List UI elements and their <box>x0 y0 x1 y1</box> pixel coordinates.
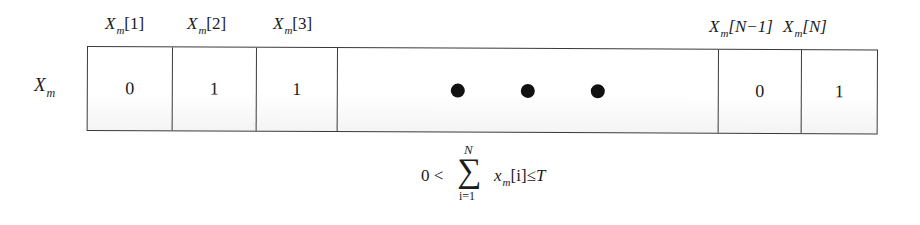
term-base: x <box>494 166 502 185</box>
row-label-base: X <box>34 74 46 95</box>
sigma-icon: ∑ <box>457 154 481 188</box>
index-label-subscript: m <box>794 27 802 39</box>
index-label-base: X <box>105 14 115 33</box>
index-label-n: Xm[N] <box>783 17 827 38</box>
dot-icon <box>451 83 465 97</box>
cell-value: 0 <box>125 78 134 99</box>
row-label-xm: Xm <box>34 74 55 98</box>
index-label-1: Xm[1] <box>105 14 144 35</box>
index-label-index: [2] <box>206 14 226 33</box>
summation: N ∑ i=1 <box>455 142 489 212</box>
index-label-index: [3] <box>292 14 312 33</box>
index-label-base: X <box>273 14 283 33</box>
array-cell-n: 1 <box>802 50 877 133</box>
formula-lhs: 0 < <box>421 166 443 186</box>
array-cell-1: 0 <box>88 47 173 130</box>
formula-rhs: T <box>536 166 545 185</box>
binary-array: 0 1 1 0 1 <box>87 46 878 134</box>
array-cell-3: 1 <box>257 48 338 131</box>
index-label-2: Xm[2] <box>187 14 226 35</box>
cell-value: 1 <box>292 79 301 100</box>
index-label-index: [N−1] <box>728 17 773 36</box>
cell-value: 1 <box>210 79 219 100</box>
term-subscript: m <box>503 176 511 188</box>
dot-icon <box>521 83 535 97</box>
relation-symbol: ≤ <box>527 166 536 185</box>
index-label-subscript: m <box>720 27 728 39</box>
sum-constraint-formula: 0 < N ∑ i=1 xm[i]≤T <box>421 142 601 212</box>
cell-value: 1 <box>835 81 844 102</box>
dot-icon <box>591 84 605 98</box>
index-label-base: X <box>187 14 197 33</box>
ellipsis-dots <box>451 83 605 98</box>
index-label-subscript: m <box>116 24 124 36</box>
formula-term: xm[i]≤T <box>494 166 545 186</box>
index-label-index: [N] <box>802 17 827 36</box>
array-cell-2: 1 <box>173 47 257 130</box>
sum-lower-limit: i=1 <box>459 189 475 204</box>
array-cell-n-minus-1: 0 <box>719 50 802 133</box>
index-label-index: [1] <box>124 14 144 33</box>
index-label-base: X <box>709 17 719 36</box>
row-label-subscript: m <box>47 86 56 100</box>
term-index: [i] <box>511 166 527 185</box>
cell-value: 0 <box>755 81 764 102</box>
index-label-base: X <box>783 17 793 36</box>
index-label-n-minus-1: Xm[N−1] <box>709 17 773 38</box>
index-label-3: Xm[3] <box>273 14 312 35</box>
index-label-subscript: m <box>198 24 206 36</box>
index-label-subscript: m <box>284 24 292 36</box>
array-cell-ellipsis <box>338 48 719 133</box>
